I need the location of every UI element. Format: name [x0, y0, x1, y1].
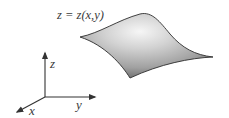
y-axis-label: y [76, 98, 82, 111]
z-axis-label: z [50, 57, 55, 70]
diagram-canvas: z = z(x,y) z y x [0, 0, 229, 118]
x-axis-label: x [29, 104, 35, 117]
surface-patch [80, 14, 213, 78]
diagram-svg [0, 0, 229, 118]
surface-equation-label: z = z(x,y) [57, 9, 104, 22]
